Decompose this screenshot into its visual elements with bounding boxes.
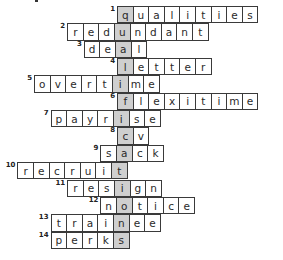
letter-cell[interactable]: v <box>50 75 67 92</box>
letter-cell[interactable]: k <box>147 145 164 162</box>
key-cell[interactable]: q <box>117 6 134 23</box>
crossword-grid: 1qualities2redundant3deal4letter5overtim… <box>0 0 283 260</box>
letter-cell[interactable]: i <box>211 6 228 23</box>
key-cell[interactable]: i <box>114 180 131 197</box>
letter-cell[interactable]: r <box>81 75 98 92</box>
letter-cell[interactable]: e <box>144 214 161 231</box>
key-cell[interactable]: c <box>117 127 134 144</box>
letter-cell[interactable]: r <box>17 162 34 179</box>
letter-cell[interactable]: i <box>179 6 196 23</box>
letter-cell[interactable]: r <box>66 214 83 231</box>
letter-cell[interactable]: e <box>133 58 150 75</box>
letter-cell[interactable]: l <box>164 6 181 23</box>
letter-cell[interactable]: i <box>147 197 164 214</box>
answer-row-3: deal <box>84 41 147 58</box>
letter-cell[interactable]: s <box>129 110 146 127</box>
letter-cell[interactable]: e <box>226 6 243 23</box>
letter-cell[interactable]: p <box>51 232 68 249</box>
letter-cell[interactable]: r <box>195 58 212 75</box>
letter-cell[interactable]: n <box>100 197 117 214</box>
letter-cell[interactable]: u <box>80 162 97 179</box>
letter-cell[interactable]: s <box>242 6 259 23</box>
letter-cell[interactable]: d <box>98 23 115 40</box>
letter-cell[interactable]: u <box>133 6 150 23</box>
letter-cell[interactable]: n <box>130 23 147 40</box>
letter-cell[interactable]: e <box>148 93 165 110</box>
key-cell[interactable]: f <box>117 93 134 110</box>
letter-cell[interactable]: e <box>83 180 100 197</box>
letter-cell[interactable]: v <box>133 127 150 144</box>
letter-cell[interactable]: e <box>99 41 116 58</box>
letter-cell[interactable]: g <box>130 180 147 197</box>
letter-cell[interactable]: l <box>133 93 150 110</box>
letter-cell[interactable]: d <box>145 23 162 40</box>
letter-cell[interactable]: i <box>97 214 114 231</box>
letter-cell[interactable]: r <box>97 110 114 127</box>
key-cell[interactable]: o <box>116 197 133 214</box>
answer-row-12: notice <box>100 197 195 214</box>
letter-cell[interactable]: t <box>195 93 212 110</box>
letter-cell[interactable]: m <box>128 75 145 92</box>
letter-cell[interactable]: y <box>82 110 99 127</box>
letter-cell[interactable]: r <box>67 180 84 197</box>
answer-row-7: payrise <box>51 110 161 127</box>
letter-cell[interactable]: x <box>164 93 181 110</box>
letter-cell[interactable]: t <box>164 58 181 75</box>
key-cell[interactable]: a <box>116 145 133 162</box>
letter-cell[interactable]: p <box>51 110 68 127</box>
letter-cell[interactable]: i <box>95 162 112 179</box>
letter-cell[interactable]: t <box>132 197 149 214</box>
key-cell[interactable]: t <box>111 162 128 179</box>
key-cell[interactable]: i <box>113 110 130 127</box>
letter-cell[interactable]: i <box>179 93 196 110</box>
letter-cell[interactable]: e <box>178 197 195 214</box>
clue-number: 2 <box>51 22 65 30</box>
clue-number: 14 <box>35 231 49 239</box>
letter-cell[interactable]: e <box>144 110 161 127</box>
letter-cell[interactable]: t <box>195 6 212 23</box>
key-cell[interactable]: i <box>112 75 129 92</box>
letter-cell[interactable]: e <box>242 93 259 110</box>
letter-cell[interactable]: r <box>67 23 84 40</box>
letter-cell[interactable]: e <box>129 214 146 231</box>
key-cell[interactable]: n <box>113 214 130 231</box>
letter-cell[interactable]: s <box>100 145 117 162</box>
letter-cell[interactable]: e <box>33 162 50 179</box>
letter-cell[interactable]: r <box>64 162 81 179</box>
key-cell[interactable]: u <box>114 23 131 40</box>
letter-cell[interactable]: r <box>82 232 99 249</box>
letter-cell[interactable]: e <box>65 75 82 92</box>
letter-cell[interactable]: a <box>161 23 178 40</box>
letter-cell[interactable]: k <box>97 232 114 249</box>
letter-cell[interactable]: c <box>163 197 180 214</box>
letter-cell[interactable]: i <box>211 93 228 110</box>
letter-cell[interactable]: e <box>143 75 160 92</box>
answer-row-4: letter <box>117 58 212 75</box>
letter-cell[interactable]: a <box>82 214 99 231</box>
answer-row-5: overtime <box>34 75 160 92</box>
letter-cell[interactable]: e <box>83 23 100 40</box>
letter-cell[interactable]: a <box>148 6 165 23</box>
clue-number: 5 <box>18 74 32 82</box>
letter-cell[interactable]: l <box>131 41 148 58</box>
letter-cell[interactable]: t <box>148 58 165 75</box>
key-cell[interactable]: a <box>115 41 132 58</box>
letter-cell[interactable]: s <box>98 180 115 197</box>
letter-cell[interactable]: n <box>145 180 162 197</box>
letter-cell[interactable]: t <box>96 75 113 92</box>
letter-cell[interactable]: n <box>176 23 193 40</box>
letter-cell[interactable]: c <box>132 145 149 162</box>
letter-cell[interactable]: t <box>51 214 68 231</box>
letter-cell[interactable]: a <box>66 110 83 127</box>
letter-cell[interactable]: e <box>66 232 83 249</box>
letter-cell[interactable]: d <box>84 41 101 58</box>
letter-cell[interactable]: c <box>49 162 66 179</box>
letter-cell[interactable]: t <box>192 23 209 40</box>
letter-cell[interactable]: o <box>34 75 51 92</box>
key-cell[interactable]: s <box>113 232 130 249</box>
answer-row-6: flexitime <box>117 93 258 110</box>
letter-cell[interactable]: m <box>226 93 243 110</box>
letter-cell[interactable]: e <box>179 58 196 75</box>
key-cell[interactable]: l <box>117 58 134 75</box>
clue-number: 1 <box>101 5 115 13</box>
